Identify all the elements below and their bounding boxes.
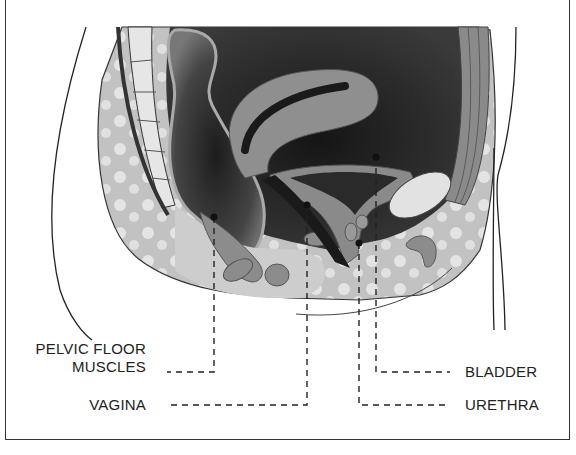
label-pelvic-floor-line1: PELVIC FLOOR xyxy=(20,340,146,358)
urethra-marker xyxy=(356,240,363,247)
body-outline-right-2 xyxy=(493,148,494,330)
urethral-opening xyxy=(345,223,357,241)
label-bladder: BLADDER xyxy=(465,363,537,381)
body-outline-right-1 xyxy=(497,27,516,330)
label-vagina: VAGINA xyxy=(20,396,146,414)
pelvic-floor-marker xyxy=(211,214,218,221)
pelvis-illustration xyxy=(0,0,576,455)
vagina-marker xyxy=(304,202,311,209)
label-pelvic-floor-muscles: PELVIC FLOOR MUSCLES xyxy=(20,340,146,376)
label-urethra: URETHRA xyxy=(465,396,539,414)
urethral-glands xyxy=(356,215,368,229)
body-outline-left xyxy=(52,27,92,340)
label-pelvic-floor-line2: MUSCLES xyxy=(20,358,146,376)
bladder-marker xyxy=(373,154,380,161)
perineal-body xyxy=(265,264,289,286)
